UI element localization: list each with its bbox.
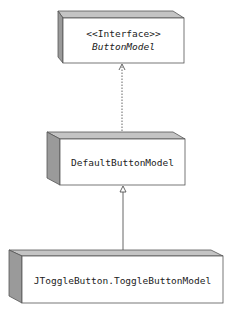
box-side-face [9,250,22,303]
node-name: DefaultButtonModel [71,157,174,168]
box-top-face [58,11,184,18]
hollow-triangle-arrowhead-icon [120,186,126,192]
node-name: ButtonModel [92,41,155,52]
node-stereotype: <<Interface>> [86,28,161,39]
box-side-face [58,11,63,63]
box-top-face [47,132,185,139]
edge-generalization [120,186,126,250]
node-name: JToggleButton.ToggleButtonModel [34,275,211,286]
node-toggle-button-model[interactable]: JToggleButton.ToggleButtonModel [9,250,223,303]
edge-realization [119,64,125,131]
node-default-button-model[interactable]: DefaultButtonModel [47,132,185,185]
box-top-face [9,250,223,256]
uml-diagram: <<Interface>> ButtonModel DefaultButtonM… [0,0,237,320]
box-side-face [47,132,60,185]
node-button-model[interactable]: <<Interface>> ButtonModel [58,11,184,63]
